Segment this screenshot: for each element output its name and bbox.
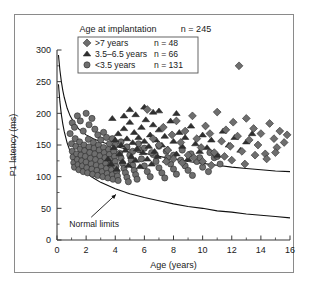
data-point-triangle (173, 111, 181, 116)
y-tick-label: 50 (41, 204, 51, 214)
data-point-triangle (130, 130, 138, 135)
x-tick-label: 6 (142, 245, 147, 255)
y-tick-label: 250 (36, 77, 51, 87)
scatter-plot: 0246810121416050100150200250300Age (year… (0, 0, 310, 289)
y-tick-label: 150 (36, 140, 51, 150)
x-tick-label: 16 (285, 245, 295, 255)
data-point-circle (92, 126, 98, 132)
data-point-diamond (276, 127, 284, 135)
data-point-circle (162, 175, 168, 181)
data-point-circle (115, 177, 121, 183)
data-point-diamond (207, 161, 215, 169)
data-point-diamond (235, 62, 243, 70)
y-tick-label: 200 (36, 109, 51, 119)
data-point-diamond (280, 139, 288, 147)
data-point-triangle (132, 112, 140, 117)
legend-label-2: <3.5 years (95, 60, 135, 70)
data-point-triangle (170, 138, 178, 143)
data-point-triangle (199, 132, 207, 137)
data-point-diamond (242, 114, 250, 122)
data-point-circle (134, 176, 140, 182)
data-point-triangle (126, 119, 134, 124)
legend-header-label: Age at implantation (79, 24, 156, 34)
data-point-triangle (187, 123, 195, 128)
legend-count-1: n = 66 (154, 49, 178, 59)
data-point-circle (173, 171, 179, 177)
data-point-diamond (189, 112, 197, 120)
data-point-diamond (266, 120, 274, 128)
x-tick-label: 10 (198, 245, 208, 255)
chart-stage: 0246810121416050100150200250300Age (year… (0, 0, 310, 289)
data-point-circle (185, 167, 191, 173)
data-point-diamond (206, 130, 214, 138)
data-point-diamond (172, 117, 180, 125)
y-tick-label: 100 (36, 172, 51, 182)
data-point-triangle (135, 135, 143, 140)
data-point-diamond (257, 130, 265, 138)
data-point-diamond (270, 135, 278, 143)
data-point-diamond (283, 131, 291, 139)
legend-label-0: >7 years (95, 38, 128, 48)
data-point-circle (98, 137, 104, 143)
data-point-circle (83, 110, 89, 116)
legend-header-n: n = 245 (181, 24, 211, 34)
data-point-triangle (109, 116, 117, 121)
data-point-triangle (142, 117, 150, 122)
data-point-diamond (202, 122, 210, 130)
annotation-leader-line (91, 194, 116, 217)
data-point-diamond (168, 131, 176, 139)
data-point-diamond (251, 151, 259, 159)
data-point-circle (67, 131, 73, 137)
x-tick-label: 14 (256, 245, 266, 255)
data-point-triangle (114, 131, 122, 136)
data-point-triangle (123, 136, 130, 141)
data-point-triangle (120, 113, 128, 118)
y-tick-label: 300 (36, 45, 51, 55)
x-tick-label: 8 (171, 245, 176, 255)
x-tick-label: 12 (227, 245, 237, 255)
data-point-triangle (149, 122, 157, 127)
data-point-circle (89, 115, 95, 121)
x-tick-label: 4 (113, 245, 118, 255)
data-point-circle (71, 124, 77, 130)
annotation-label: Normal limits (69, 219, 119, 229)
data-point-circle (147, 174, 153, 180)
data-point-diamond (250, 125, 258, 133)
data-point-triangle (120, 126, 128, 131)
data-point-diamond (254, 141, 262, 149)
x-tick-label: 2 (84, 245, 89, 255)
data-point-circle (77, 118, 83, 124)
data-point-triangle (138, 124, 146, 129)
data-point-triangle (208, 137, 216, 142)
data-point-circle (80, 128, 86, 134)
data-point-diamond (228, 156, 236, 164)
x-tick-label: 0 (54, 245, 59, 255)
data-point-diamond (229, 118, 237, 126)
x-axis-title: Age (years) (150, 260, 197, 270)
data-point-circle (135, 141, 141, 147)
data-point-circle (205, 169, 211, 175)
data-point-circle (84, 62, 90, 68)
data-point-diamond (241, 160, 249, 168)
y-axis-title: P1 latency (ms) (8, 114, 18, 177)
data-point-circle (103, 134, 109, 140)
legend-count-2: n = 131 (154, 60, 183, 70)
legend-label-1: 3.5–6.5 years (95, 49, 147, 59)
data-point-circle (189, 172, 195, 178)
data-point-triangle (155, 108, 163, 113)
data-point-diamond (221, 152, 229, 160)
data-point-circle (217, 161, 223, 167)
data-point-diamond (218, 137, 226, 145)
data-point-diamond (213, 108, 221, 116)
data-point-triangle (161, 133, 169, 138)
legend-count-0: n = 48 (154, 38, 178, 48)
data-point-circle (86, 122, 92, 128)
data-point-circle (125, 179, 131, 185)
data-point-triangle (126, 107, 134, 112)
y-tick-label: 0 (46, 235, 51, 245)
